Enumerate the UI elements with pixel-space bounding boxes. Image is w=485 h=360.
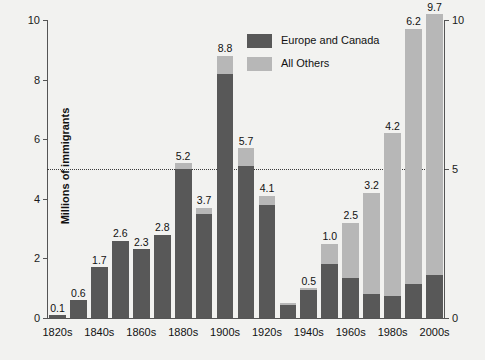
bar-segment-all-others xyxy=(238,148,255,166)
bar-value-label: 3.2 xyxy=(364,180,379,191)
bar-segment-europe-and-canada xyxy=(154,235,171,318)
bar-segment-europe-and-canada xyxy=(238,166,255,318)
bar-value-label: 5.2 xyxy=(176,151,191,162)
x-tick-label-1860s: 1860s xyxy=(126,327,156,338)
bar-segment-all-others xyxy=(342,223,359,278)
bar-segment-europe-and-canada xyxy=(280,305,297,318)
x-tick-label-1840s: 1840s xyxy=(84,327,114,338)
bar-value-label: 8.8 xyxy=(218,43,233,54)
bar-segment-europe-and-canada xyxy=(405,284,422,318)
bar-value-label: 0.6 xyxy=(71,288,86,299)
bar-segment-europe-and-canada xyxy=(49,315,66,318)
bar-segment-all-others xyxy=(405,29,422,284)
x-tick-label-1960s: 1960s xyxy=(336,327,366,338)
y-tick-label: 10 xyxy=(28,15,40,26)
bar-segment-all-others xyxy=(426,14,443,275)
y-tick-label: 8 xyxy=(34,75,40,86)
bar-1840s[interactable]: 1.7 xyxy=(91,267,108,318)
bar-value-label: 6.2 xyxy=(406,16,421,27)
bar-1890s[interactable]: 3.7 xyxy=(196,208,213,318)
bar-segment-europe-and-canada xyxy=(133,249,150,318)
bar-1960s[interactable]: 2.5 xyxy=(342,223,359,318)
bar-segment-all-others xyxy=(321,244,338,265)
bar-1850s[interactable]: 2.6 xyxy=(112,241,129,318)
x-tick-label-1880s: 1880s xyxy=(168,327,198,338)
x-tick-label-1940s: 1940s xyxy=(294,327,324,338)
bar-value-label: 5.7 xyxy=(239,136,254,147)
bar-1820s[interactable]: 0.1 xyxy=(49,315,66,318)
chart-legend: Europe and Canada All Others xyxy=(247,33,379,79)
legend-item-all-others: All Others xyxy=(247,56,379,71)
bar-1860s[interactable]: 2.3 xyxy=(133,249,150,318)
x-tick-label-1980s: 1980s xyxy=(378,327,408,338)
y-tick-label: 6 xyxy=(34,134,40,145)
bar-value-label: 9.7 xyxy=(427,2,442,13)
bar-value-label: 4.2 xyxy=(385,121,400,132)
plot-area: Millions of immigrants 0246810 0510 0.10… xyxy=(47,14,445,318)
bar-value-label: 2.6 xyxy=(113,228,128,239)
bar-segment-europe-and-canada xyxy=(196,214,213,318)
bar-value-label: 4.1 xyxy=(260,183,275,194)
bar-segment-europe-and-canada xyxy=(91,267,108,318)
y-tick-label-right: 5 xyxy=(452,164,458,175)
bar-1900s[interactable]: 8.8 xyxy=(217,56,234,318)
y-tick-label-right: 0 xyxy=(452,313,458,324)
bar-segment-europe-and-canada xyxy=(259,205,276,318)
legend-swatch-icon xyxy=(247,57,272,71)
bar-2000s[interactable]: 9.7 xyxy=(426,14,443,318)
bar-segment-europe-and-canada xyxy=(342,278,359,318)
legend-item-europe-and-canada: Europe and Canada xyxy=(247,33,379,48)
bar-segment-all-others xyxy=(363,193,380,294)
legend-swatch-icon xyxy=(247,34,272,48)
x-tick-label-2000s: 2000s xyxy=(420,327,450,338)
bar-1830s[interactable]: 0.6 xyxy=(70,300,87,318)
bar-segment-europe-and-canada xyxy=(321,264,338,318)
immigration-bar-chart: Millions of immigrants 0246810 0510 0.10… xyxy=(0,0,485,360)
bar-segment-europe-and-canada xyxy=(112,241,129,318)
bar-segment-all-others xyxy=(384,133,401,295)
y-tick-label-right: 10 xyxy=(452,15,464,26)
y-tick-label: 2 xyxy=(34,253,40,264)
bar-value-label: 0.5 xyxy=(302,276,317,287)
bar-value-label: 1.7 xyxy=(92,255,107,266)
bar-segment-all-others xyxy=(259,196,276,205)
bar-segment-europe-and-canada xyxy=(70,300,87,318)
bar-segment-europe-and-canada xyxy=(384,296,401,318)
bar-1920s[interactable]: 4.1 xyxy=(259,196,276,318)
bar-1990s[interactable]: 6.2 xyxy=(405,29,422,318)
bar-segment-europe-and-canada xyxy=(217,74,234,318)
y-tick-right xyxy=(445,20,449,21)
y-tick-label: 4 xyxy=(34,194,40,205)
bar-segment-europe-and-canada xyxy=(426,275,443,318)
bar-1940s[interactable]: 0.5 xyxy=(300,288,317,318)
bar-value-label: 2.5 xyxy=(343,210,358,221)
bar-1870s[interactable]: 2.8 xyxy=(154,235,171,318)
bar-1930s[interactable] xyxy=(280,303,297,318)
bar-1970s[interactable]: 3.2 xyxy=(363,193,380,318)
x-tick-label-1820s: 1820s xyxy=(42,327,72,338)
bar-1880s[interactable]: 5.2 xyxy=(175,163,192,318)
bar-1910s[interactable]: 5.7 xyxy=(238,148,255,318)
y-tick-label: 0 xyxy=(34,313,40,324)
bar-segment-europe-and-canada xyxy=(363,294,380,318)
x-tick-label-1900s: 1900s xyxy=(210,327,240,338)
bar-value-label: 1.0 xyxy=(322,231,337,242)
x-axis-tick-labels: 1820s1840s1860s1880s1900s1920s1940s1960s… xyxy=(47,321,445,347)
bar-value-label: 0.1 xyxy=(50,303,65,314)
bar-segment-all-others xyxy=(217,56,234,74)
y-tick-right xyxy=(445,169,449,170)
y-tick-right xyxy=(445,318,449,319)
bar-series-container: 0.10.61.72.62.32.85.23.78.85.74.10.51.02… xyxy=(47,14,445,319)
bar-segment-europe-and-canada xyxy=(300,290,317,318)
bar-value-label: 2.8 xyxy=(155,222,170,233)
bar-1980s[interactable]: 4.2 xyxy=(384,133,401,318)
bar-segment-europe-and-canada xyxy=(175,169,192,318)
bar-1950s[interactable]: 1.0 xyxy=(321,244,338,318)
x-tick-label-1920s: 1920s xyxy=(252,327,282,338)
legend-label: Europe and Canada xyxy=(281,35,379,46)
legend-label: All Others xyxy=(281,58,329,69)
bar-value-label: 3.7 xyxy=(197,195,212,206)
bar-value-label: 2.3 xyxy=(134,237,149,248)
